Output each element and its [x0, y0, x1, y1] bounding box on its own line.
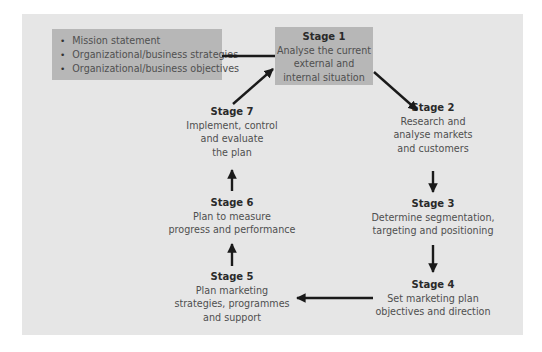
- arrow-stage1-to-stage2: [374, 72, 417, 110]
- arrow-stage7-to-stage1: [233, 69, 273, 104]
- flow-arrows: [0, 0, 542, 352]
